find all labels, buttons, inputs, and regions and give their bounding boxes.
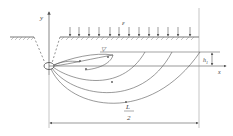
x-axis-label: x	[217, 69, 221, 75]
y-axis-label: y	[39, 14, 44, 22]
flow-direction-markers	[79, 56, 127, 103]
h1-label: h1	[203, 57, 208, 65]
half-span-denominator: 2	[127, 114, 131, 122]
flow-lines	[51, 52, 200, 103]
surface-load-label: ε	[122, 19, 125, 27]
right-ground-surface	[60, 37, 199, 40]
half-span-dimension: L 2	[50, 103, 198, 123]
half-span-numerator: L	[125, 103, 130, 111]
left-ground-surface	[10, 37, 34, 40]
seepage-diagram: ε y x ▽ h1 L 2	[0, 0, 233, 136]
surface-load-arrows	[70, 27, 190, 36]
excavation-dashed-lines	[34, 37, 60, 63]
water-table-symbol: ▽	[101, 46, 107, 52]
